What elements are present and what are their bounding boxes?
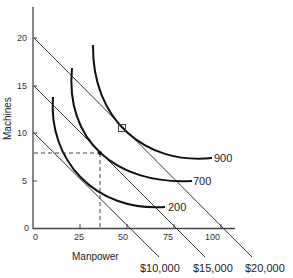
y-tick-0: 0 — [24, 223, 29, 233]
isoquant-chart: 20 15 10 5 0 0 25 50 75 100 Machines Man… — [0, 0, 293, 278]
isoquant-label-700: 700 — [193, 175, 211, 187]
isoquant-label-200: 200 — [168, 201, 186, 213]
x-tick-75: 75 — [163, 232, 173, 242]
budget-label-15000: $15,000 — [193, 262, 233, 274]
tangency-dot — [98, 151, 102, 155]
y-tick-15: 15 — [17, 81, 27, 91]
x-tick-25: 25 — [74, 232, 84, 242]
isoquant-900 — [93, 45, 212, 159]
y-tick-10: 10 — [17, 128, 27, 138]
budget-label-10000: $10,000 — [140, 262, 180, 274]
budget-line-10000 — [34, 133, 159, 257]
x-axis-label: Manpower — [72, 251, 119, 262]
y-axis-label: Machines — [2, 97, 13, 140]
y-tick-5: 5 — [22, 176, 27, 186]
isoquant-700 — [71, 68, 192, 181]
y-tick-20: 20 — [17, 33, 27, 43]
isoquant-label-900: 900 — [214, 152, 232, 164]
x-tick-0: 0 — [33, 232, 38, 242]
x-tick-50: 50 — [118, 232, 128, 242]
budget-line-20000 — [34, 38, 252, 257]
x-tick-100: 100 — [205, 232, 220, 242]
budget-label-20000: $20,000 — [245, 262, 285, 274]
